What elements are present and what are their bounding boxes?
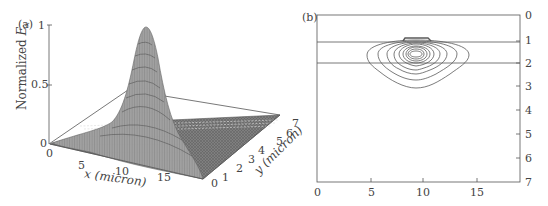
x-tick: 15 [470,187,484,198]
surface-plot-canvas [0,0,300,206]
panel-b-contour-plot: (b) 0 1 2 3 4 5 6 7 0 5 10 15 [300,0,548,206]
y-tick: 1 [222,172,229,183]
contour-plot-canvas [300,0,548,206]
x-tick: 10 [416,187,430,198]
y-tick: 4 [525,105,532,116]
y-tick: 0 [211,178,218,189]
z-tick: 1 [38,20,45,31]
x-tick: 0 [46,148,53,159]
y-tick: 3 [525,81,532,92]
surface-peak [52,27,203,179]
x-tick: 15 [157,172,171,183]
y-tick: 5 [525,129,532,140]
panel-a-surface-plot: (a) Normalized Ex 1 0.5 0 0 5 10 15 x (m… [0,0,300,206]
y-tick: 6 [525,153,532,164]
z-tick: 0.5 [31,79,49,90]
y-tick: 2 [525,58,532,69]
y-tick: 0 [525,10,532,21]
y-tick: 7 [525,177,532,188]
y-tick: 1 [525,35,532,46]
panel-b-label: (b) [302,12,318,23]
z-axis-label: Normalized Ex [16,22,31,110]
x-tick: 0 [314,187,321,198]
y-tick: 2 [236,163,243,174]
x-tick: 5 [368,187,375,198]
